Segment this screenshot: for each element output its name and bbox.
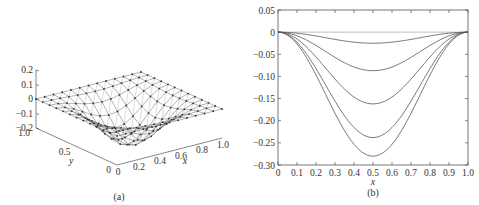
y-tick-label: −0.15	[253, 94, 275, 104]
x-tick-label: 0.2	[310, 168, 322, 178]
x-tick-label: 0.8	[424, 168, 436, 178]
caption-b-text: (b)	[367, 187, 379, 199]
y-tick-label: −0.05	[253, 50, 275, 60]
y-tick-label: −0.30	[253, 161, 275, 171]
x-tick-label: 0.4	[348, 168, 360, 178]
series-line	[278, 32, 468, 71]
plot-frame	[278, 10, 468, 165]
series-line	[278, 32, 468, 137]
x-tick-label: 0.7	[405, 168, 417, 178]
y-tick-label: 0	[270, 28, 275, 38]
x-tick-label: 0.1	[291, 168, 303, 178]
series-line	[278, 32, 468, 43]
line-plot-b: 0.050−0.05−0.10−0.15−0.20−0.25−0.3000.10…	[0, 0, 479, 205]
y-tick-label: −0.20	[253, 116, 275, 126]
x-axis-label: x	[370, 176, 376, 187]
x-tick-label: 1.0	[462, 168, 474, 178]
x-tick-label: 0	[276, 168, 281, 178]
y-tick-label: 0.05	[258, 6, 275, 16]
y-tick-label: −0.25	[253, 138, 275, 148]
x-tick-label: 0.6	[386, 168, 398, 178]
x-tick-label: 0.9	[443, 168, 455, 178]
y-tick-label: −0.10	[253, 72, 275, 82]
x-tick-label: 0.3	[329, 168, 341, 178]
